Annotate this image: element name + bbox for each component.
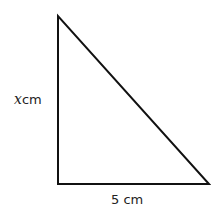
- height-variable: x: [14, 91, 22, 107]
- height-label: xcm: [14, 91, 42, 107]
- right-triangle: [58, 16, 209, 184]
- base-label: 5 cm: [111, 192, 143, 207]
- triangle-diagram: [0, 0, 221, 219]
- height-unit: cm: [22, 92, 42, 107]
